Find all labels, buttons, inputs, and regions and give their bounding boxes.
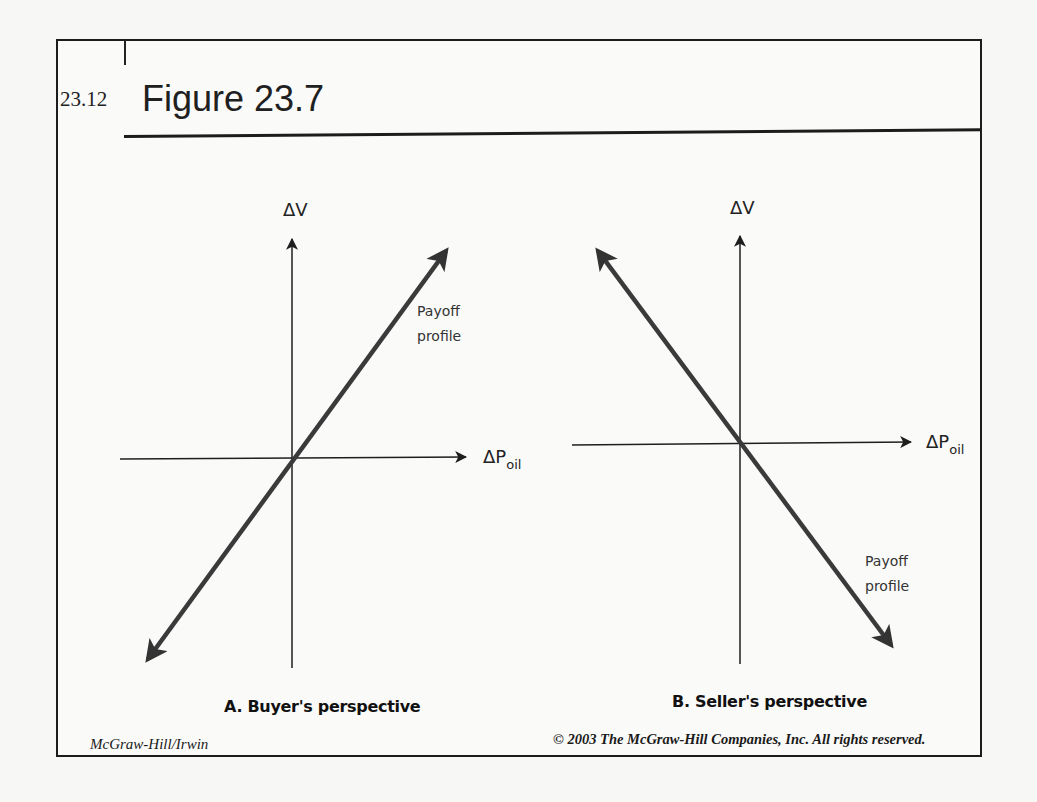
- payoff-line: [148, 251, 446, 659]
- x-axis-label: ΔPoil: [483, 446, 521, 472]
- payoff-label-line1: Payoff: [417, 303, 460, 319]
- x-axis-label: ΔPoil: [926, 431, 964, 457]
- panel-caption-seller: B. Seller's perspective: [672, 692, 867, 711]
- y-axis-label: ΔV: [730, 197, 755, 218]
- publisher-footer: McGraw-Hill/Irwin: [90, 736, 208, 753]
- charts-canvas: ΔV ΔPoil Payoff profile ΔV ΔPoil Payoff …: [0, 0, 1037, 802]
- copyright-footer: © 2003 The McGraw-Hill Companies, Inc. A…: [553, 731, 925, 748]
- payoff-label-line2: profile: [417, 328, 461, 344]
- payoff-label-line1: Payoff: [865, 553, 908, 569]
- panel-seller: ΔV ΔPoil Payoff profile: [572, 197, 964, 664]
- panel-buyer: ΔV ΔPoil Payoff profile: [120, 199, 521, 668]
- panel-caption-buyer: A. Buyer's perspective: [224, 697, 420, 716]
- payoff-label-line2: profile: [865, 578, 909, 594]
- y-axis-label: ΔV: [283, 199, 308, 220]
- payoff-line: [598, 251, 891, 645]
